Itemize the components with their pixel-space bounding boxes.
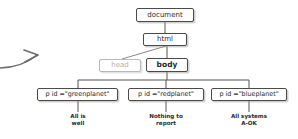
curved-arrow-right-icon (0, 50, 38, 68)
node-head: head (99, 59, 141, 72)
node-p-greenplanet-label: p id ="greenplanet" (46, 91, 110, 98)
node-p-redplanet-label: p id ="redplanet" (138, 91, 194, 98)
node-body: body (146, 58, 188, 72)
text-node-greenplanet: All is well (48, 113, 108, 128)
node-head-label: head (111, 62, 128, 69)
node-html-label: html (157, 36, 173, 43)
node-p-greenplanet: p id ="greenplanet" (37, 88, 118, 101)
node-p-blueplanet: p id ="blueplanet" (211, 88, 287, 101)
text-node-redplanet: Nothing to report (136, 113, 196, 128)
node-html: html (143, 33, 187, 46)
node-p-redplanet: p id ="redplanet" (128, 88, 204, 101)
node-document-label: document (147, 11, 182, 18)
node-document: document (136, 8, 194, 22)
dom-tree-diagram: document html head body p id ="greenplan… (0, 0, 298, 139)
text-node-blueplanet: All systems A-OK (219, 113, 279, 128)
node-p-blueplanet-label: p id ="blueplanet" (219, 91, 278, 98)
node-body-label: body (157, 61, 178, 69)
